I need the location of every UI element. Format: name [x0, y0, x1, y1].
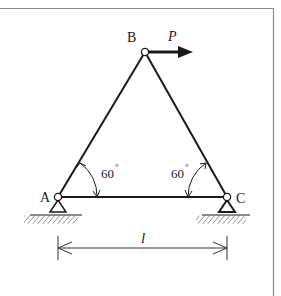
load-label-p: P	[167, 29, 177, 44]
load-arrow-p	[148, 46, 193, 58]
angle-unit-c: °	[185, 162, 189, 172]
pin-support-a	[24, 200, 82, 224]
angle-arc-a	[76, 163, 100, 197]
member-bc	[145, 52, 227, 197]
angle-unit-a: °	[115, 162, 119, 172]
angle-value-a: 60	[101, 166, 114, 181]
truss-diagram: B P A C 60 ° 60 ° l	[0, 0, 281, 296]
node-label-a: A	[40, 190, 51, 205]
frame-border	[0, 9, 274, 296]
angle-value-c: 60	[171, 166, 184, 181]
joint-c	[223, 193, 230, 200]
joint-b	[141, 48, 148, 55]
dimension-label-l: l	[141, 230, 145, 246]
joint-a	[54, 193, 61, 200]
node-label-b: B	[127, 30, 136, 45]
node-label-c: C	[236, 191, 245, 206]
